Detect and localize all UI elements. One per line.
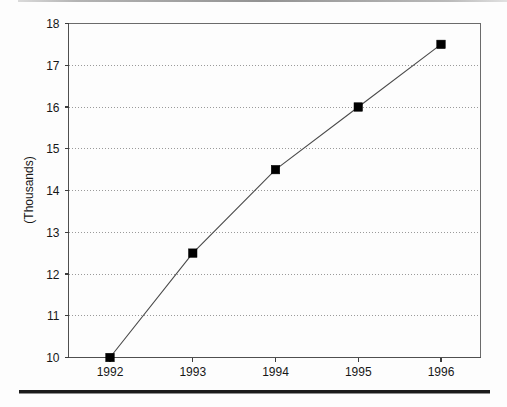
y-axis-title: (Thousands) xyxy=(22,156,36,223)
data-point-marker xyxy=(354,103,363,112)
data-point-marker xyxy=(189,249,198,258)
y-axis-title-text: (Thousands) xyxy=(22,156,36,223)
data-point-marker xyxy=(106,353,115,362)
x-tick-label: 1992 xyxy=(97,365,124,379)
gridlines-group xyxy=(69,65,481,316)
y-tick-label: 14 xyxy=(46,184,60,198)
y-tick-label: 17 xyxy=(46,59,60,73)
y-tick-label: 12 xyxy=(46,268,60,282)
x-axis-tick-labels: 19921993199419951996 xyxy=(97,365,455,379)
data-point-marker xyxy=(437,40,446,49)
y-tick-label: 10 xyxy=(46,351,60,365)
data-point-marker xyxy=(271,165,280,174)
line-chart-figure: 101112131415161718 19921993199419951996 … xyxy=(0,0,507,407)
x-tick-label: 1996 xyxy=(428,365,455,379)
y-tick-label: 15 xyxy=(46,142,60,156)
y-tick-label: 11 xyxy=(47,309,60,323)
series-polyline xyxy=(110,44,441,357)
axis-frame xyxy=(69,24,481,358)
x-tick-label: 1993 xyxy=(179,365,206,379)
y-tick-label: 13 xyxy=(46,226,60,240)
y-tick-label: 16 xyxy=(46,101,60,115)
series-line xyxy=(110,44,441,357)
x-tick-label: 1995 xyxy=(345,365,372,379)
y-axis-tick-labels: 101112131415161718 xyxy=(46,17,60,365)
x-tick-label: 1994 xyxy=(262,365,289,379)
series-markers xyxy=(106,40,446,362)
y-tick-label: 18 xyxy=(46,17,60,31)
chart-canvas: 101112131415161718 19921993199419951996 … xyxy=(0,0,507,407)
